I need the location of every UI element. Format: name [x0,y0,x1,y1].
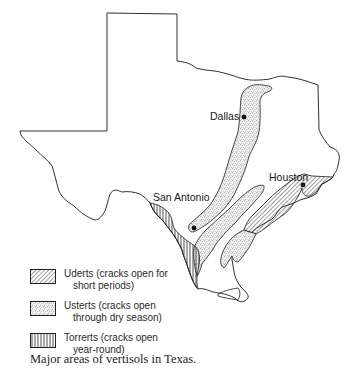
legend-usterts-line1: Usterts (cracks open [64,300,156,311]
legend-torrerts-line1: Torrerts (cracks open [64,332,158,343]
legend-item-uderts: Uderts (cracks open for short periods) [30,268,204,294]
figure-caption: Major areas of vertisols in Texas. [30,352,196,367]
dallas-label: Dallas [210,110,239,122]
legend-uderts-line2: short periods) [64,280,204,292]
diagonal-hatch-swatch-icon [30,269,56,284]
legend-uderts-line1: Uderts (cracks open for [64,268,168,279]
usterts-region-coastal-south [221,230,256,268]
legend-item-usterts: Usterts (cracks open through dry season) [30,300,204,326]
san-antonio-label: San Antonio [153,191,210,203]
texas-outline [20,13,339,302]
san-antonio-marker [192,226,197,231]
stipple-swatch-icon [30,301,56,316]
barrier-island [218,288,240,300]
map-legend: Uderts (cracks open for short periods) U… [30,268,204,364]
uderts-region-houston [244,174,333,234]
legend-usterts-line2: through dry season) [64,312,204,324]
houston-marker [301,183,306,188]
dallas-marker [242,115,247,120]
houston-label: Houston [269,171,308,183]
vertical-hatch-swatch-icon [30,333,56,348]
